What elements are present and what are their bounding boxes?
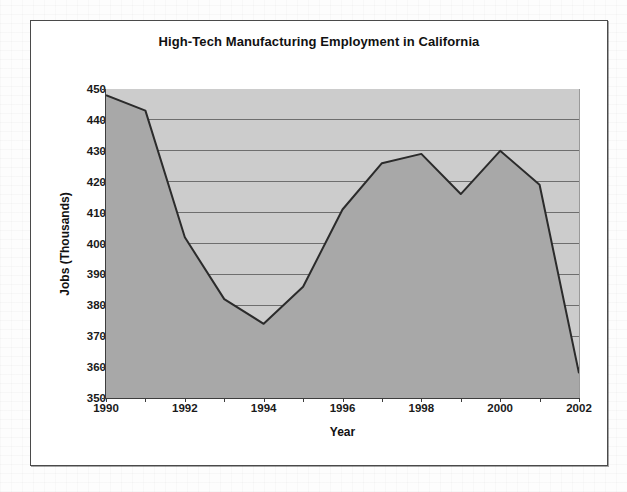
y-axis-ticks: 450440430420410400390380370360350 — [56, 89, 106, 398]
chart-title: High-Tech Manufacturing Employment in Ca… — [31, 34, 607, 49]
x-tick-label: 2000 — [470, 402, 530, 414]
y-tick-label: 390 — [66, 268, 106, 280]
area-series-fill — [106, 95, 579, 398]
y-tick-label: 430 — [66, 145, 106, 157]
screenshot-page: High-Tech Manufacturing Employment in Ca… — [0, 0, 627, 492]
y-tick-label: 410 — [66, 207, 106, 219]
y-tick-label: 420 — [66, 176, 106, 188]
x-axis-ticks: 1990199219941996199820002002 — [106, 402, 579, 422]
x-tick-label: 1992 — [155, 402, 215, 414]
y-tick-label: 380 — [66, 299, 106, 311]
x-tick-label: 2002 — [549, 402, 609, 414]
plot-right-edge — [579, 89, 580, 398]
x-tick-label: 1998 — [391, 402, 451, 414]
x-tick-label: 1996 — [313, 402, 373, 414]
x-tick-mark — [224, 398, 225, 402]
y-tick-label: 370 — [66, 330, 106, 342]
x-tick-mark — [264, 398, 265, 402]
x-tick-label: 1990 — [76, 402, 136, 414]
x-axis-title: Year — [106, 425, 579, 439]
x-tick-mark — [579, 398, 580, 402]
figure-frame: High-Tech Manufacturing Employment in Ca… — [30, 20, 608, 466]
x-tick-mark — [303, 398, 304, 402]
x-tick-mark — [540, 398, 541, 402]
x-tick-mark — [106, 398, 107, 402]
x-tick-mark — [382, 398, 383, 402]
y-axis-line — [105, 89, 106, 398]
plot-area — [106, 89, 579, 398]
x-tick-mark — [500, 398, 501, 402]
x-tick-mark — [145, 398, 146, 402]
y-tick-label: 450 — [66, 83, 106, 95]
x-tick-mark — [461, 398, 462, 402]
x-tick-mark — [343, 398, 344, 402]
y-tick-label: 440 — [66, 114, 106, 126]
area-chart-svg — [106, 89, 579, 398]
y-tick-label: 400 — [66, 238, 106, 250]
y-tick-label: 360 — [66, 361, 106, 373]
x-tick-label: 1994 — [234, 402, 294, 414]
x-tick-mark — [185, 398, 186, 402]
x-tick-mark — [421, 398, 422, 402]
